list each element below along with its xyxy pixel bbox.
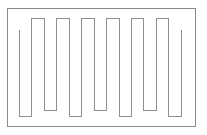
serpentine-meander-path (20, 19, 182, 117)
outer-rectangle-border (7, 9, 195, 127)
figure-root (0, 0, 207, 135)
serpentine-diagram (0, 0, 207, 135)
